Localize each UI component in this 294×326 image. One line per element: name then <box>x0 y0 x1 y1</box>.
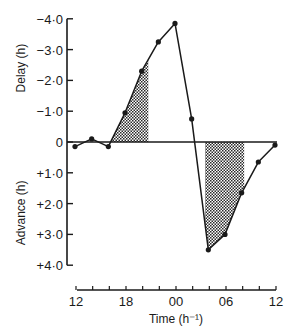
y-tick-label: +1·0 <box>37 166 63 181</box>
data-point <box>106 144 111 149</box>
y-axis-title-delay: Delay (h) <box>14 44 28 93</box>
y-tick-label: −2·0 <box>37 73 63 88</box>
x-tick-label: 12 <box>69 294 83 309</box>
data-point <box>72 144 77 149</box>
data-point <box>206 247 211 252</box>
x-tick-label: 18 <box>119 294 133 309</box>
y-tick-label: −3·0 <box>37 43 63 58</box>
data-point <box>122 110 127 115</box>
x-tick-label: 06 <box>219 294 233 309</box>
y-tick-label: −1·0 <box>37 104 63 119</box>
y-tick-label: +3·0 <box>37 227 63 242</box>
y-tick-label: +2·0 <box>37 197 63 212</box>
axes <box>67 19 277 290</box>
data-point <box>239 190 244 195</box>
data-point <box>256 159 261 164</box>
shaded-regions <box>112 59 245 249</box>
phase-response-chart: −4·0−3·0−2·0−1·00+1·0+2·0+3·0+4·01218000… <box>0 0 294 326</box>
data-point <box>272 142 277 147</box>
data-point <box>139 69 144 74</box>
y-tick-label: −4·0 <box>37 12 63 27</box>
y-tick-label: 0 <box>56 135 63 150</box>
data-point <box>89 136 94 141</box>
y-axis-title-advance: Advance (h) <box>14 180 28 245</box>
data-series <box>72 21 277 253</box>
data-point <box>172 21 177 26</box>
x-tick-label: 12 <box>269 294 283 309</box>
data-point <box>189 116 194 121</box>
x-axis-title: Time (h⁻¹) <box>149 312 203 326</box>
x-tick-label: 00 <box>169 294 183 309</box>
y-tick-label: +4·0 <box>37 258 63 273</box>
data-point <box>156 39 161 44</box>
data-line <box>75 23 275 249</box>
data-point <box>222 232 227 237</box>
